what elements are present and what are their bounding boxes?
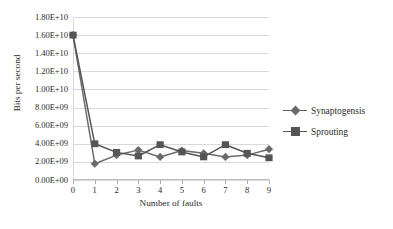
chart-figure: 0.00E+002.00E+094.00E+096.00E+098.00E+09… bbox=[0, 0, 393, 229]
data-point-square bbox=[200, 154, 207, 161]
x-axis-tick-label: 8 bbox=[240, 186, 254, 195]
x-axis-tick bbox=[160, 180, 161, 184]
x-axis-tick-label: 6 bbox=[197, 186, 211, 195]
x-axis-tick bbox=[73, 180, 74, 184]
x-axis-tick bbox=[182, 180, 183, 184]
data-point-diamond bbox=[156, 153, 164, 161]
data-series-layer bbox=[73, 17, 269, 180]
gridline bbox=[73, 180, 269, 181]
x-axis-tick bbox=[225, 180, 226, 184]
y-axis-tick-label: 1.40E+10 bbox=[35, 49, 68, 58]
series-line bbox=[73, 35, 269, 164]
legend-item-sprouting[interactable]: Sprouting bbox=[283, 121, 393, 142]
x-axis-tick-label: 5 bbox=[175, 186, 189, 195]
diamond-marker-icon bbox=[283, 105, 307, 117]
data-point-square bbox=[69, 32, 76, 39]
x-axis-tick bbox=[247, 180, 248, 184]
data-point-square bbox=[91, 140, 98, 147]
data-point-diamond bbox=[91, 160, 99, 168]
y-axis-tick-label: 4.00E+09 bbox=[35, 139, 68, 148]
series-line bbox=[73, 35, 269, 158]
x-axis-tick-label: 0 bbox=[66, 186, 80, 195]
data-point-square bbox=[265, 154, 272, 161]
y-axis-tick-label: 1.80E+10 bbox=[35, 13, 68, 22]
chart-legend: Synaptogensis Sprouting bbox=[283, 100, 393, 142]
y-axis-tick-label: 6.00E+09 bbox=[35, 121, 68, 130]
x-axis-tick bbox=[138, 180, 139, 184]
y-axis-tick-label: 1.60E+10 bbox=[35, 31, 68, 40]
x-axis-tick bbox=[269, 180, 270, 184]
data-point-square bbox=[113, 149, 120, 156]
data-point-square bbox=[157, 141, 164, 148]
legend-item-synaptogensis[interactable]: Synaptogensis bbox=[283, 100, 393, 121]
data-point-square bbox=[135, 153, 142, 160]
x-axis-tick bbox=[95, 180, 96, 184]
x-axis-tick-label: 9 bbox=[262, 186, 276, 195]
x-axis-tick-label: 4 bbox=[153, 186, 167, 195]
x-axis-tick bbox=[204, 180, 205, 184]
data-point-diamond bbox=[221, 153, 229, 161]
x-axis-tick-label: 3 bbox=[131, 186, 145, 195]
x-axis-tick-label: 2 bbox=[110, 186, 124, 195]
y-axis-tick-label: 1.20E+10 bbox=[35, 67, 68, 76]
data-point-square bbox=[244, 150, 251, 157]
data-point-diamond bbox=[265, 145, 273, 153]
y-axis-title: Bits per second bbox=[12, 28, 22, 138]
y-axis-tick-label: 1.00E+10 bbox=[35, 85, 68, 94]
data-point-square bbox=[178, 149, 185, 156]
x-axis-tick-label: 7 bbox=[218, 186, 232, 195]
legend-label: Sprouting bbox=[311, 127, 348, 137]
x-axis-tick-label: 1 bbox=[88, 186, 102, 195]
legend-label: Synaptogensis bbox=[311, 106, 365, 116]
y-axis-tick-label: 0.00E+00 bbox=[35, 176, 68, 185]
y-axis-tick-label: 8.00E+09 bbox=[35, 103, 68, 112]
x-axis-title: Number of faults bbox=[73, 198, 269, 208]
x-axis-tick bbox=[117, 180, 118, 184]
y-axis-tick-label: 2.00E+09 bbox=[35, 157, 68, 166]
square-marker-icon bbox=[283, 126, 307, 138]
data-point-square bbox=[222, 141, 229, 148]
